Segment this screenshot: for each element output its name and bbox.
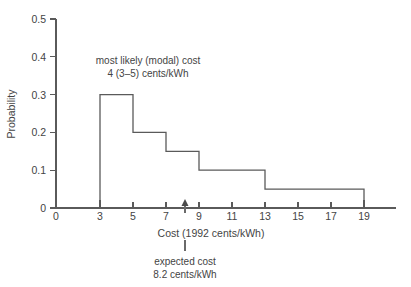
chart-canvas: 0.5 0.4 0.3 0.2 0.1 0 Probability 0 3 5 (0, 0, 411, 287)
expected-cost-arrow-icon (182, 199, 189, 206)
expected-cost-line2: 8.2 cents/kWh (153, 269, 216, 280)
x-tick-label: 19 (358, 210, 370, 222)
modal-cost-annotation: most likely (modal) cost 4 (3–5) cents/k… (96, 55, 201, 79)
y-tick-label: 0.5 (31, 13, 46, 25)
x-tick-label: 17 (325, 210, 337, 222)
expected-cost-line1: expected cost (154, 256, 216, 267)
modal-cost-line2: 4 (3–5) cents/kWh (107, 68, 188, 79)
x-tick-label: 13 (259, 210, 271, 222)
x-axis-tick-labels: 0 3 5 7 9 11 13 15 17 19 (53, 210, 370, 222)
y-tick-label: 0 (40, 202, 46, 214)
y-tick-label: 0.2 (31, 126, 46, 138)
y-tick-label: 0.3 (31, 89, 46, 101)
x-tick-label: 15 (292, 210, 304, 222)
y-tick-label: 0.1 (31, 164, 46, 176)
y-tick-label: 0.4 (31, 51, 46, 63)
probability-step-curve (100, 95, 364, 208)
x-tick-label: 0 (53, 210, 59, 222)
y-axis-tick-labels: 0.5 0.4 0.3 0.2 0.1 0 (31, 13, 46, 214)
x-tick-label: 7 (163, 210, 169, 222)
x-axis-title: Cost (1992 cents/kWh) (158, 227, 265, 239)
modal-cost-line1: most likely (modal) cost (96, 55, 201, 66)
x-tick-label: 3 (97, 210, 103, 222)
probability-distribution-chart: 0.5 0.4 0.3 0.2 0.1 0 Probability 0 3 5 (0, 0, 411, 287)
y-axis-ticks (50, 19, 56, 208)
x-tick-label: 9 (196, 210, 202, 222)
x-tick-label: 11 (227, 210, 238, 222)
expected-cost-annotation: expected cost 8.2 cents/kWh (153, 240, 216, 280)
x-axis-ticks (56, 200, 364, 208)
x-tick-label: 5 (130, 210, 136, 222)
y-axis-title: Probability (5, 89, 17, 139)
